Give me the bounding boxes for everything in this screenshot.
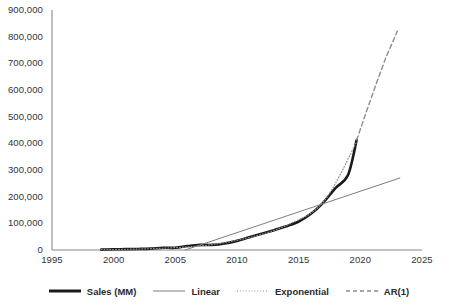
- legend-label: AR(1): [384, 286, 409, 297]
- series-line-linear: [185, 178, 400, 250]
- legend-label: Linear: [191, 286, 220, 297]
- series-line-sales-mm: [101, 140, 356, 249]
- chart-container: 0100,000200,000300,000400,000500,000600,…: [0, 0, 457, 306]
- series-line-ar-1: [357, 31, 398, 140]
- series-line-exponential: [101, 142, 356, 250]
- legend-item[interactable]: Linear: [152, 286, 220, 297]
- chart-legend: Sales (MM)LinearExponentialAR(1): [0, 281, 457, 301]
- dotted-line-swatch: [236, 287, 270, 295]
- dashed-line-swatch: [345, 287, 379, 295]
- legend-item[interactable]: Sales (MM): [48, 286, 137, 297]
- plot-area: [0, 0, 457, 306]
- data-series-group: [101, 31, 399, 250]
- legend-item[interactable]: AR(1): [345, 286, 409, 297]
- axes: [52, 10, 422, 250]
- legend-item[interactable]: Exponential: [236, 286, 329, 297]
- legend-label: Sales (MM): [87, 286, 137, 297]
- solid-thin-line-swatch: [152, 287, 186, 295]
- legend-label: Exponential: [275, 286, 329, 297]
- solid-thick-line-swatch: [48, 287, 82, 295]
